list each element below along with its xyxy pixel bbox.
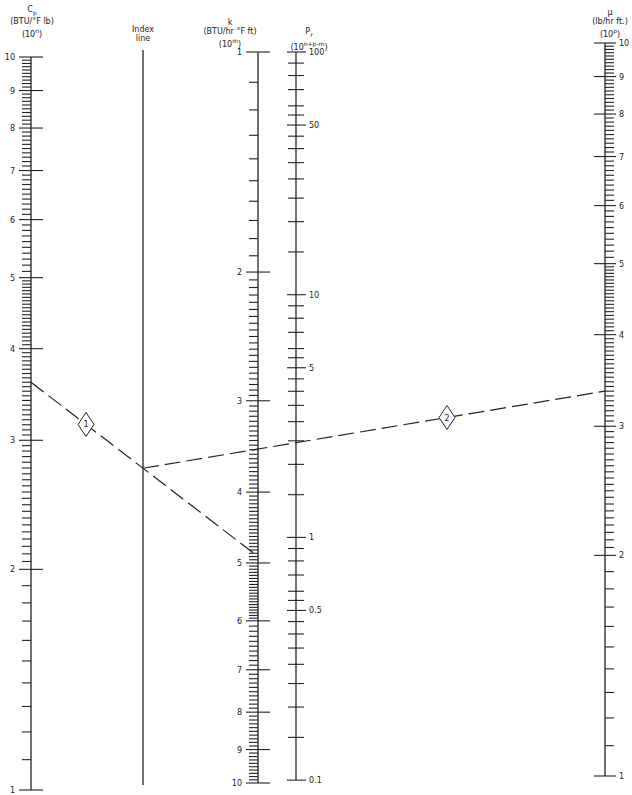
- pr-label-0.1: 0.1: [309, 776, 322, 785]
- line-2-index-to-mu: [143, 391, 605, 468]
- cp-label-6: 6: [10, 216, 15, 225]
- mu-label-5: 5: [619, 260, 624, 269]
- mu-label-9: 9: [619, 73, 624, 82]
- nomograph-canvas: 12345678910 12345678910 1005010510.50.1 …: [0, 0, 632, 795]
- line-1-cp-to-k: [31, 382, 258, 556]
- mu-label-7: 7: [619, 153, 624, 162]
- cp-label-10: 10: [5, 53, 15, 62]
- mu-label-2: 2: [619, 551, 624, 560]
- pr-label-50: 50: [309, 121, 319, 130]
- pr-axis: 1005010510.50.1: [287, 48, 324, 785]
- cp-label-3: 3: [10, 436, 15, 445]
- pr-label-0.5: 0.5: [309, 606, 322, 615]
- k-label-9: 9: [237, 746, 242, 755]
- pr-label-1: 1: [309, 533, 314, 542]
- pr-label-10: 10: [309, 291, 319, 300]
- cp-label-5: 5: [10, 274, 15, 283]
- k-label-8: 8: [237, 708, 242, 717]
- mu-label-6: 6: [619, 202, 624, 211]
- example-lines: [31, 382, 605, 556]
- cp-label-4: 4: [10, 345, 15, 354]
- cp-label-2: 2: [10, 565, 15, 574]
- mu-label-1: 1: [619, 772, 624, 781]
- k-label-4: 4: [237, 488, 242, 497]
- cp-label-7: 7: [10, 167, 15, 176]
- k-axis: 12345678910: [232, 48, 270, 788]
- cp-label-1: 1: [10, 786, 15, 795]
- cp-label-8: 8: [10, 124, 15, 133]
- marker-2: 2: [439, 406, 455, 430]
- cp-label-9: 9: [10, 87, 15, 96]
- k-label-6: 6: [237, 617, 242, 626]
- marker-number: 1: [83, 420, 88, 429]
- k-label-1: 1: [237, 48, 242, 57]
- pr-label-5: 5: [309, 364, 314, 373]
- pr-label-100: 100: [309, 48, 324, 57]
- k-label-3: 3: [237, 397, 242, 406]
- cp-axis: 12345678910: [5, 53, 43, 795]
- step-markers: 12: [78, 406, 455, 437]
- mu-label-3: 3: [619, 422, 624, 431]
- k-label-10: 10: [232, 779, 242, 788]
- mu-label-4: 4: [619, 331, 624, 340]
- marker-1: 1: [78, 412, 94, 436]
- k-label-7: 7: [237, 666, 242, 675]
- marker-number: 2: [444, 414, 449, 423]
- k-label-2: 2: [237, 268, 242, 277]
- mu-label-10: 10: [619, 39, 629, 48]
- k-label-5: 5: [237, 559, 242, 568]
- mu-label-8: 8: [619, 110, 624, 119]
- mu-axis: 12345678910: [594, 39, 629, 781]
